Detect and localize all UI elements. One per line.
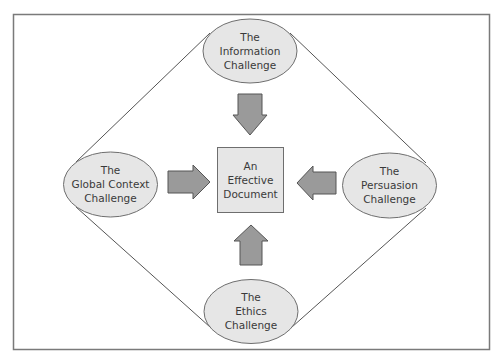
effective-document-box [218, 148, 284, 213]
persuasion-challenge-ellipse [343, 153, 437, 218]
information-challenge-ellipse [203, 19, 297, 83]
ethics-challenge-ellipse [204, 280, 298, 344]
diagram-canvas [0, 0, 500, 361]
global-context-challenge-ellipse [64, 152, 158, 217]
